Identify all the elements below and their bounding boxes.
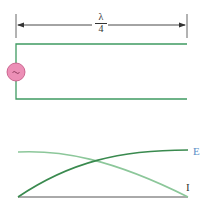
dimension-denominator: 4 — [94, 24, 108, 34]
voltage-curve — [18, 150, 188, 197]
voltage-current-graph — [18, 150, 188, 197]
wavelength-symbol: λ — [94, 12, 108, 22]
ac-source-icon — [7, 63, 25, 81]
arrow-left-icon — [17, 23, 24, 28]
transmission-line — [16, 44, 187, 99]
voltage-label: E — [193, 145, 200, 157]
current-label: I — [186, 181, 190, 193]
dimension-label: λ 4 — [94, 12, 108, 34]
arrow-right-icon — [179, 23, 186, 28]
